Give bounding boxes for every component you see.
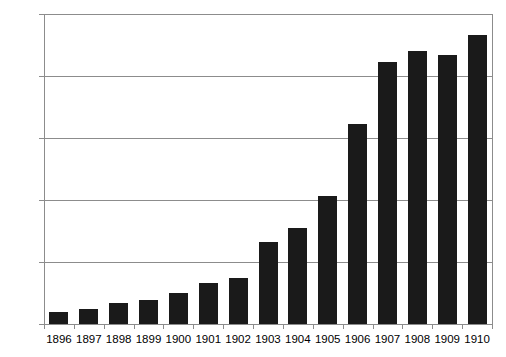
x-tick-mark xyxy=(373,324,374,329)
x-tick-mark xyxy=(74,324,75,329)
x-tick-mark xyxy=(163,324,164,329)
x-tick-mark xyxy=(104,324,105,329)
bars-layer xyxy=(44,14,492,324)
x-tick-label-1905: 1905 xyxy=(313,333,343,346)
x-tick-mark xyxy=(313,324,314,329)
x-tick-label-1909: 1909 xyxy=(432,333,462,346)
bar-chart: 03006009001,2001,500 1896189718981899190… xyxy=(0,0,506,357)
x-tick-mark xyxy=(462,324,463,329)
x-tick-mark xyxy=(283,324,284,329)
bar-1901 xyxy=(199,283,218,324)
x-tick-label-1898: 1898 xyxy=(104,333,134,346)
x-tick-mark xyxy=(343,324,344,329)
bar-1909 xyxy=(438,55,457,324)
x-tick-label-1904: 1904 xyxy=(283,333,313,346)
bar-1902 xyxy=(229,278,248,325)
bar-1906 xyxy=(348,124,367,324)
x-tick-label-1906: 1906 xyxy=(343,333,373,346)
x-tick-label-1903: 1903 xyxy=(253,333,283,346)
x-tick-label-1896: 1896 xyxy=(44,333,74,346)
bar-1896 xyxy=(49,312,68,324)
x-tick-mark xyxy=(193,324,194,329)
x-tick-mark xyxy=(134,324,135,329)
x-tick-label-1899: 1899 xyxy=(134,333,164,346)
bar-1904 xyxy=(288,228,307,324)
bar-1905 xyxy=(318,196,337,324)
bar-1898 xyxy=(109,303,128,324)
x-tick-mark xyxy=(253,324,254,329)
x-tick-label-1901: 1901 xyxy=(193,333,223,346)
bar-1910 xyxy=(468,35,487,324)
x-tick-label-1897: 1897 xyxy=(74,333,104,346)
bar-1908 xyxy=(408,51,427,324)
x-tick-mark xyxy=(223,324,224,329)
x-tick-label-1902: 1902 xyxy=(223,333,253,346)
bar-1897 xyxy=(79,309,98,325)
x-tick-label-1900: 1900 xyxy=(163,333,193,346)
x-tick-mark xyxy=(402,324,403,329)
x-tick-mark xyxy=(492,324,493,329)
x-tick-label-1907: 1907 xyxy=(373,333,403,346)
x-tick-label-1910: 1910 xyxy=(462,333,492,346)
plot-right-border xyxy=(492,14,493,325)
bar-1899 xyxy=(139,300,158,324)
x-axis-line xyxy=(44,324,493,325)
bar-1907 xyxy=(378,62,397,324)
x-tick-mark xyxy=(44,324,45,329)
x-tick-mark xyxy=(432,324,433,329)
bar-1903 xyxy=(259,242,278,324)
bar-1900 xyxy=(169,293,188,324)
x-tick-label-1908: 1908 xyxy=(402,333,432,346)
